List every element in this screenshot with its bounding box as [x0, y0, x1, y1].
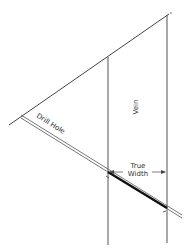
intercept-end-tick-icon [163, 211, 166, 212]
true-width-label-line1: True [130, 162, 146, 170]
surface-line [9, 14, 169, 125]
vein-label: Vein [132, 100, 140, 115]
diagram-canvas: True Width Vein Drill Hole [0, 0, 189, 252]
arrowhead-right-icon [161, 170, 166, 174]
surface-end-marker [170, 12, 172, 14]
drill-hole-label: Drill Hole [35, 112, 66, 136]
true-width-label-line2: Width [128, 170, 148, 178]
drill-hole-line-a [21, 115, 182, 215]
